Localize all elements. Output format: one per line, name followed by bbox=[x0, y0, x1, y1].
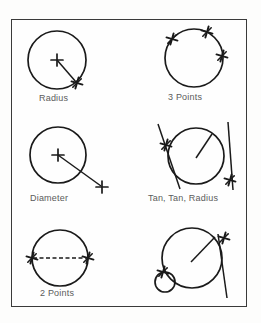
page-border-frame bbox=[11, 19, 247, 307]
diagram-page: Radius 3 Points Diameter Tan, Tan, Radiu… bbox=[0, 0, 261, 323]
figure-label-diameter: Diameter bbox=[30, 193, 68, 203]
figure-label-radius: Radius bbox=[39, 93, 68, 103]
figure-label-two-points: 2 Points bbox=[40, 288, 74, 298]
figure-label-tan-tan-radius: Tan, Tan, Radius bbox=[148, 193, 218, 203]
figure-label-three-points: 3 Points bbox=[168, 92, 202, 102]
